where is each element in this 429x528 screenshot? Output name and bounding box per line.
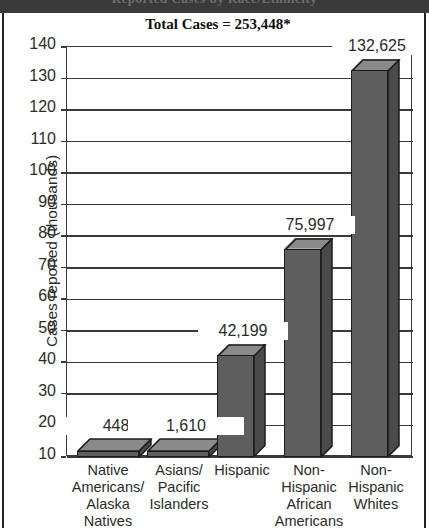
y-tick-label: 40	[0, 350, 56, 368]
y-tick-label: 70	[0, 256, 56, 274]
banner-text: Reported Cases by Race/Ethnicity	[0, 0, 429, 7]
y-tick-label: 20	[0, 413, 56, 431]
bar-front-face-3	[284, 249, 321, 457]
y-tick-label: 110	[0, 130, 56, 148]
bar-top-outline-0	[77, 438, 153, 452]
x-category-line: Americans	[266, 513, 352, 528]
y-tick-label: 10	[0, 445, 56, 463]
bar-value-label-4: 132,625	[332, 37, 422, 55]
y-tick-label: 30	[0, 382, 56, 400]
bar-side-face-3	[321, 238, 334, 458]
y-tick-label: 120	[0, 98, 56, 116]
x-category-label-4: Non-HispanicWhites	[336, 462, 416, 513]
bar-front-face-0	[77, 451, 139, 457]
bar-value-label-1: 1,610	[128, 417, 244, 435]
x-category-line: Islanders	[133, 496, 225, 513]
page-banner-strip: Reported Cases by Race/Ethnicity	[0, 0, 429, 13]
bar-2	[217, 355, 254, 457]
page-rule-right	[424, 13, 426, 528]
y-tick-label: 90	[0, 193, 56, 211]
y-tick-label: 80	[0, 224, 56, 242]
x-category-line: Hispanic	[336, 479, 416, 496]
bar-top-outline-1	[147, 438, 223, 452]
y-tick-label: 140	[0, 35, 56, 53]
bar-front-face-4	[351, 70, 388, 457]
y-tick-label: 50	[0, 319, 56, 337]
x-category-line: Natives	[60, 513, 156, 528]
y-tick-label: 100	[0, 161, 56, 179]
x-category-line: Pacific	[133, 479, 225, 496]
y-tick-label: 60	[0, 287, 56, 305]
chart-title: Total Cases = 253,448*	[18, 16, 418, 33]
bar-side-face-2	[254, 344, 267, 458]
bar-value-label-2: 42,199	[198, 322, 288, 340]
bar-3	[284, 249, 321, 457]
bar-front-face-2	[217, 355, 254, 457]
x-category-line: Non-	[336, 462, 416, 479]
chart-page: Reported Cases by Race/Ethnicity Total C…	[0, 0, 429, 528]
bar-4	[351, 70, 388, 457]
bar-0	[77, 451, 139, 457]
plot-area	[66, 46, 412, 456]
y-tick-label: 130	[0, 67, 56, 85]
bar-value-label-3: 75,997	[265, 216, 355, 234]
y-tick-mark	[61, 456, 66, 458]
bar-side-face-4	[388, 59, 401, 458]
x-category-line: Whites	[336, 496, 416, 513]
bar-front-face-1	[147, 451, 209, 457]
bar-1	[147, 451, 209, 457]
